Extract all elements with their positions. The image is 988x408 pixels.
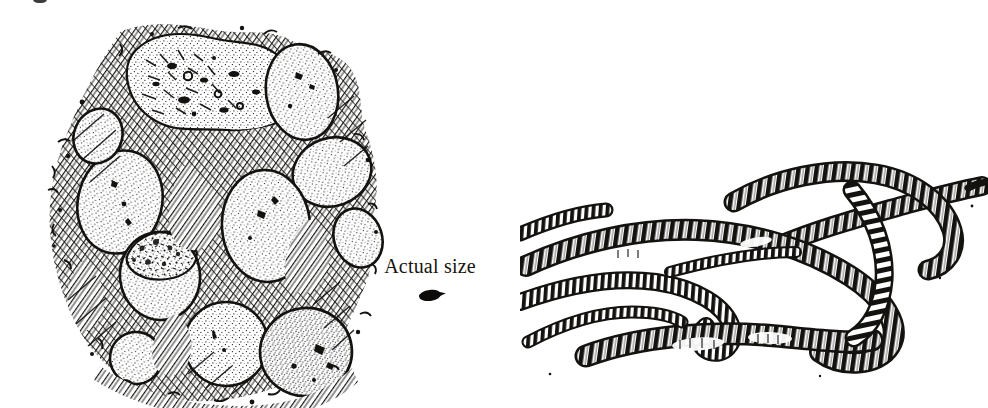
actual-size-egg-capsule-swatch [418,289,441,302]
earthworm-group-illustration [520,130,988,382]
illustration-page: Actual size [0,0,988,408]
actual-size-caption: Actual size [374,254,486,301]
egg-capsule-cluster-illustration [28,14,388,408]
actual-size-label: Actual size [374,254,486,278]
cut-off-text-descender [33,0,47,3]
